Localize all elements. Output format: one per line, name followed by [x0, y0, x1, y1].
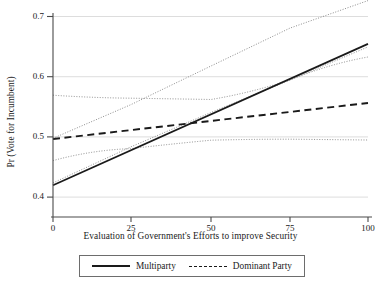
legend-label-multiparty: Multiparty [136, 261, 176, 271]
y-axis-ticks [47, 17, 53, 198]
legend-entry-multiparty: Multiparty [92, 261, 176, 271]
legend-entry-dominant-party: Dominant Party [189, 261, 292, 271]
y-tick-label-1: 0.6 [14, 71, 44, 81]
y-tick-label-0: 0.7 [14, 11, 44, 21]
x-axis-ticks [53, 217, 368, 222]
legend-key-solid-line-icon [92, 265, 130, 267]
chart-legend: Multiparty Dominant Party [79, 255, 305, 277]
legend-label-dominant-party: Dominant Party [233, 261, 292, 271]
y-axis-title: Pr (Vote for Incumbent) [6, 42, 16, 202]
y-tick-label-2: 0.5 [14, 131, 44, 141]
x-axis-title: Evaluation of Government's Efforts to im… [0, 231, 381, 241]
y-tick-label-3: 0.4 [14, 191, 44, 201]
legend-key-dashed-line-icon [189, 266, 227, 267]
chart-figure: 0.7 0.6 0.5 0.4 0 25 50 75 100 Evaluatio… [0, 0, 381, 282]
plot-background [53, 10, 368, 217]
